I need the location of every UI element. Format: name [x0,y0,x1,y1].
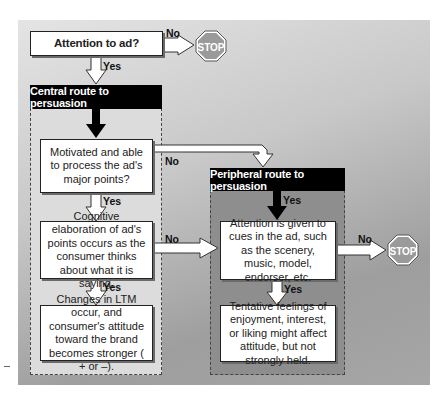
stop-sign-icon: STOP [387,234,419,266]
label-yes-cognitive: Yes [103,281,121,293]
motivated-box: Motivated and able to process the ad's m… [40,139,153,193]
margin-tick-mark [4,366,10,367]
stop-sign-icon: STOP [195,30,227,62]
svg-text:STOP: STOP [197,42,224,53]
arrow-central-to-motivated [86,109,106,138]
label-yes-motivated: Yes [103,195,121,207]
label-yes-peripheral: Yes [283,194,301,206]
label-yes-attention: Yes [103,60,121,72]
label-no-motivated: No [165,155,179,167]
ltm-changes-box: Changes in LTM occur, and consumer's att… [40,305,153,361]
arrow-cognitive-to-peripheral [152,238,218,258]
svg-text:STOP: STOP [389,246,416,257]
attention-to-ad-box: Attention to ad? [30,31,163,56]
label-no-cues: No [358,233,372,245]
label-yes-cues: Yes [284,283,302,295]
tentative-feelings-box: Tentative feelings of enjoyment, interes… [220,305,336,362]
cognitive-elaboration-box: Cognitive elaboration of ad's points occ… [40,221,153,279]
label-no-attention: No [166,27,180,39]
attention-to-cues-box: Attention is given to cues in the ad, su… [220,221,336,280]
label-no-cognitive: No [165,233,179,245]
